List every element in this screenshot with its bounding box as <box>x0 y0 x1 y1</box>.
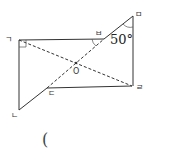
angle-label: 50° <box>110 32 133 47</box>
label-nieun: ㄴ <box>11 111 18 120</box>
label-bieup: ㅂ <box>95 29 102 38</box>
angle-arc-bieup <box>92 39 96 46</box>
label-mieum: ㅁ <box>135 10 142 19</box>
right-angle-mark <box>19 40 26 47</box>
answer-blank: ( <box>42 130 48 149</box>
label-digeut: ㄷ <box>48 89 55 98</box>
label-giyeok: ㄱ <box>5 35 12 44</box>
geometry-figure: ㄱ ㅂ ㅁ ㄹ ㄷ ㄴ O 50° <box>0 0 179 155</box>
segment-nieun-digeut <box>19 88 47 110</box>
segment-giyeok-bieup <box>19 39 104 40</box>
angle-arc-mieum <box>123 24 133 27</box>
segment-digeut-rieul <box>47 86 132 88</box>
label-center: O <box>73 67 79 76</box>
center-point <box>75 62 77 64</box>
label-rieul: ㄹ <box>136 83 143 92</box>
